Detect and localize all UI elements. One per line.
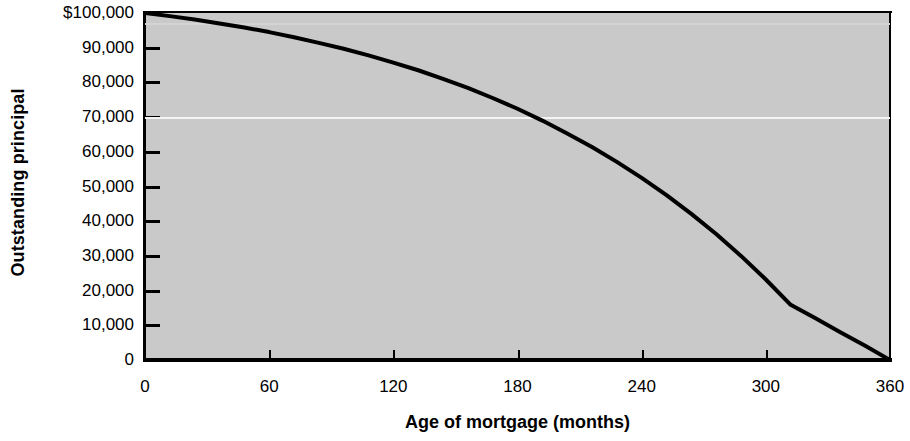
x-axis-title: Age of mortgage (months) (145, 412, 890, 433)
y-axis-tick-label: 10,000 (82, 315, 134, 335)
y-axis-tick-label: 40,000 (82, 211, 134, 231)
y-axis-tick-label: $100,000 (63, 3, 134, 23)
y-axis-tick-label: 20,000 (82, 281, 134, 301)
x-axis-tick-label: 180 (503, 377, 531, 397)
y-axis-tick-label: 60,000 (82, 142, 134, 162)
y-axis-tick-label: 80,000 (82, 72, 134, 92)
x-axis-tick-label: 360 (876, 377, 904, 397)
y-axis-tick-label: 30,000 (82, 246, 134, 266)
x-axis-tick-label: 240 (627, 377, 655, 397)
y-axis-tick-label: 90,000 (82, 38, 134, 58)
x-axis-tick-label: 120 (379, 377, 407, 397)
y-axis-tick-label: 0 (125, 350, 134, 370)
x-axis-tick-labels: 060120180240300360 (0, 377, 910, 401)
y-axis-tick-label: 50,000 (82, 177, 134, 197)
mortgage-amortization-chart: Outstanding principal 010,00020,00030,00… (0, 0, 910, 441)
principal-curve (145, 13, 890, 360)
principal-curve-line (145, 13, 890, 360)
y-axis-title: Outstanding principal (0, 0, 36, 365)
y-axis-tick-label: 70,000 (82, 107, 134, 127)
x-axis-tick-label: 60 (260, 377, 279, 397)
x-axis-tick-label: 0 (140, 377, 149, 397)
y-axis-tick-labels: 010,00020,00030,00040,00050,00060,00070,… (36, 0, 139, 370)
x-axis-tick-label: 300 (752, 377, 780, 397)
y-axis-title-text: Outstanding principal (8, 88, 29, 276)
